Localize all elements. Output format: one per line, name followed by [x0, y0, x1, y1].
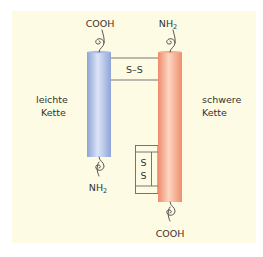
interchain-bond-label: S–S [126, 64, 143, 75]
light-chain-cylinder [87, 52, 111, 157]
light-chain [87, 51, 111, 157]
svg-text:Kette: Kette [202, 107, 227, 118]
interchain-disulfide-bond: S–S [111, 58, 158, 80]
intrachain-bond-label-top: S [140, 157, 146, 168]
heavy-chain [158, 51, 182, 202]
heavy-chain-cylinder [158, 52, 182, 202]
intrachain-disulfide-bond: S S [136, 146, 159, 194]
light-chain-label: leichte Kette [36, 94, 68, 118]
heavy-chain-top-terminus: NH2 [159, 18, 177, 31]
svg-text:Kette: Kette [41, 107, 66, 118]
heavy-chain-label: schwere Kette [202, 94, 242, 118]
heavy-chain-bottom-curl-icon [167, 202, 175, 221]
intrachain-bond-label-bottom: S [140, 170, 146, 181]
svg-text:leichte: leichte [36, 94, 68, 105]
heavy-chain-bottom-terminus: COOH [156, 228, 185, 239]
light-chain-top-terminus: COOH [86, 18, 115, 29]
heavy-chain-top-curl-icon [167, 30, 176, 52]
svg-text:schwere: schwere [202, 94, 242, 105]
light-chain-bottom-terminus: NH2 [89, 182, 107, 195]
light-chain-bottom-curl-icon [96, 157, 104, 176]
antibody-diagram: S–S S S COOH NH2 NH2 COOH leichte Kette … [0, 0, 263, 257]
light-chain-top-curl-icon [96, 30, 105, 52]
